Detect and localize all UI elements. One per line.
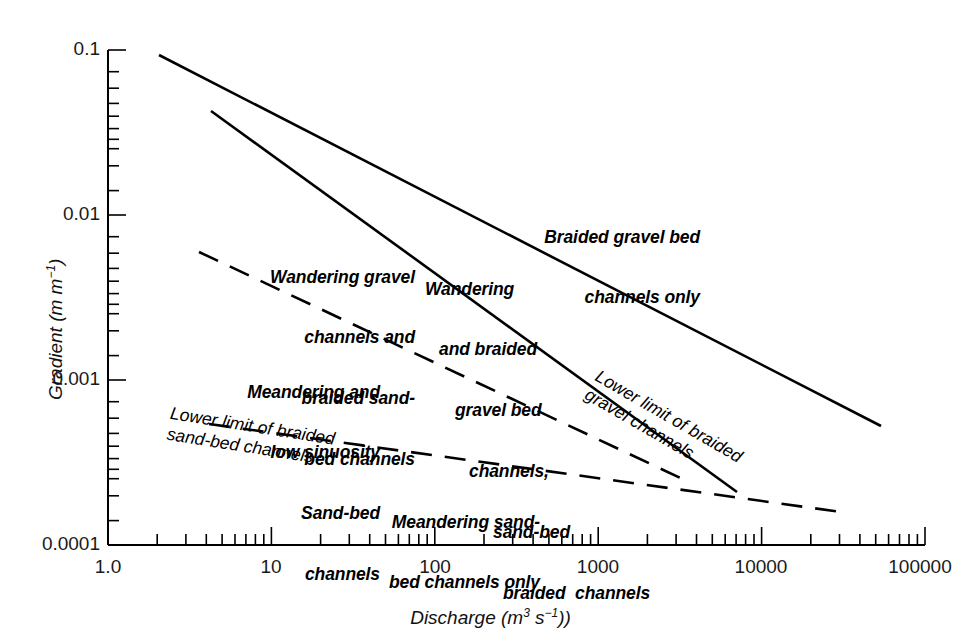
y-tick-label-0: 0.1 xyxy=(22,38,100,60)
annotation-meandering-low-sinuosity-line-1: Meandering and xyxy=(165,382,380,402)
y-axis-title-units-open: (m m xyxy=(45,279,66,328)
y-axis-title-main: Gradient xyxy=(45,327,66,400)
annotation-wandering-gravel-line-1: Wandering gravel xyxy=(160,267,415,287)
y-axis-title-units-close: ) xyxy=(45,259,66,265)
x-tick-label-5: 100000 xyxy=(880,556,960,578)
annotation-wandering-braided-line-2: and braided xyxy=(425,339,715,359)
y-axis-title: Gradient (m m−1) xyxy=(44,259,67,400)
x-tick-label-4: 10000 xyxy=(721,556,801,578)
y-tick-label-3: 0.0001 xyxy=(12,533,100,555)
annotation-meandering-sand-only: Meandering sand- bed channels only xyxy=(300,471,540,632)
y-axis-title-exponent: −1 xyxy=(44,265,58,279)
x-tick-label-0: 1.0 xyxy=(68,556,148,578)
annotation-meandering-sand-only-line-2: bed channels only xyxy=(300,572,540,592)
annotation-meandering-sand-only-line-1: Meandering sand- xyxy=(300,512,540,532)
y-axis-ticks xyxy=(108,50,126,545)
y-tick-label-1: 0.01 xyxy=(22,203,100,225)
annotation-wandering-braided-line-1: Wandering xyxy=(425,279,715,299)
